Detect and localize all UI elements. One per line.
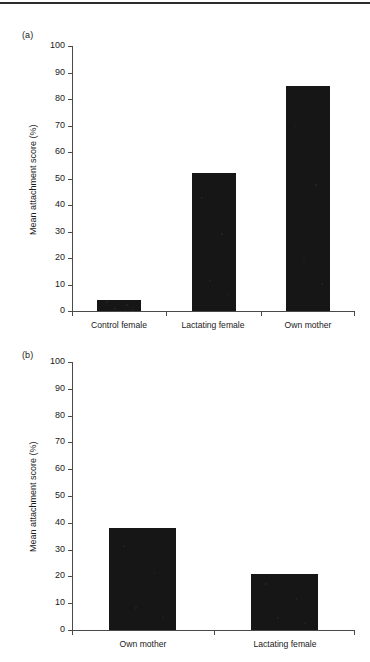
bar — [251, 574, 318, 630]
header-rule — [0, 2, 370, 4]
y-axis-tick-label: 60 — [36, 464, 65, 473]
y-axis-tick-label: 10 — [36, 280, 65, 289]
y-axis-tick-label: 100 — [36, 41, 65, 50]
y-axis-tick — [68, 232, 72, 233]
y-axis-tick — [68, 285, 72, 286]
y-axis-tick — [68, 496, 72, 497]
bar — [109, 528, 176, 630]
y-axis-line — [72, 362, 73, 631]
y-axis-tick-label: 90 — [36, 384, 65, 393]
x-axis-tick — [261, 312, 262, 316]
bar — [286, 86, 330, 311]
y-axis-tick-label: 30 — [36, 227, 65, 236]
y-axis-tick — [68, 550, 72, 551]
y-axis-tick-label: 80 — [36, 411, 65, 420]
y-axis-tick — [68, 416, 72, 417]
y-axis-tick-label: 50 — [36, 174, 65, 183]
y-axis-tick-label: 40 — [36, 200, 65, 209]
y-axis-tick — [68, 179, 72, 180]
x-axis-category-label: Lactating female — [166, 320, 260, 330]
y-axis-tick — [68, 46, 72, 47]
y-axis-tick-label: 40 — [36, 518, 65, 527]
x-axis-tick — [166, 312, 167, 316]
x-axis-end-tick — [72, 631, 73, 635]
y-axis-tick — [68, 469, 72, 470]
y-axis-tick-label: 90 — [36, 68, 65, 77]
bar — [97, 300, 141, 311]
panel-a: (a) 1009080706050403020100Mean attachmen… — [0, 18, 370, 338]
y-axis-tick-label: 20 — [36, 571, 65, 580]
x-axis-category-label: Own mother — [261, 320, 355, 330]
y-axis-title: Mean attachment score (%) — [28, 124, 38, 235]
y-axis-tick — [68, 126, 72, 127]
panel-b-label: (b) — [22, 350, 33, 360]
panel-a-label: (a) — [22, 30, 33, 40]
y-axis-tick — [68, 205, 72, 206]
y-axis-tick-label: 10 — [36, 598, 65, 607]
y-axis-tick — [68, 73, 72, 74]
y-axis-tick-label: 20 — [36, 253, 65, 262]
y-axis-tick-label: 30 — [36, 545, 65, 554]
y-axis-tick — [68, 576, 72, 577]
y-axis-line — [72, 46, 73, 312]
x-axis-end-tick — [354, 312, 355, 316]
y-axis-tick-label: 80 — [36, 94, 65, 103]
y-axis-tick-label: 70 — [36, 121, 65, 130]
x-axis-category-label: Control female — [72, 320, 166, 330]
bar — [192, 173, 236, 311]
y-axis-tick — [68, 442, 72, 443]
y-axis-tick-label: 50 — [36, 491, 65, 500]
y-axis-tick-label: 70 — [36, 437, 65, 446]
x-axis-category-label: Lactating female — [214, 639, 356, 649]
y-axis-tick — [68, 152, 72, 153]
y-axis-title: Mean attachment score (%) — [28, 441, 38, 552]
y-axis-tick — [68, 362, 72, 363]
x-axis-category-label: Own mother — [72, 639, 214, 649]
x-axis-line — [72, 311, 355, 312]
y-axis-tick-label: 100 — [36, 357, 65, 366]
y-axis-tick-label: 0 — [36, 625, 65, 634]
x-axis-tick — [214, 631, 215, 635]
x-axis-end-tick — [354, 631, 355, 635]
y-axis-tick-label: 60 — [36, 147, 65, 156]
y-axis-tick — [68, 99, 72, 100]
y-axis-tick — [68, 389, 72, 390]
y-axis-tick — [68, 258, 72, 259]
y-axis-tick — [68, 603, 72, 604]
y-axis-tick — [68, 523, 72, 524]
panel-b: (b) 1009080706050403020100Mean attachmen… — [0, 338, 370, 662]
x-axis-end-tick — [72, 312, 73, 316]
y-axis-tick-label: 0 — [36, 306, 65, 315]
